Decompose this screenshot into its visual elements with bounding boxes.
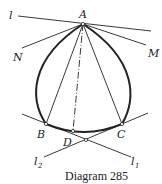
intersection-marker bbox=[84, 138, 87, 141]
label-N: N bbox=[12, 51, 23, 64]
label-l2-subscript: 2 bbox=[37, 162, 43, 170]
label-D: D bbox=[62, 136, 72, 149]
label-l1-subscript: 1 bbox=[135, 162, 139, 170]
label-A: A bbox=[78, 8, 87, 21]
line-AD bbox=[73, 24, 83, 131]
point-C-marker bbox=[120, 122, 123, 125]
point-D-marker bbox=[71, 129, 74, 132]
label-B: B bbox=[36, 128, 45, 141]
point-B-marker bbox=[44, 122, 47, 125]
label-l: l bbox=[9, 9, 13, 22]
diagram-caption: Diagram 285 bbox=[65, 169, 128, 183]
line-l2 bbox=[44, 113, 148, 157]
line-AN bbox=[22, 24, 83, 48]
point-A-marker bbox=[81, 22, 84, 25]
label-C: C bbox=[117, 128, 126, 141]
label-M: M bbox=[147, 47, 160, 60]
diagram-canvas: l A N M B D C l 2 l 1 Diagram 285 bbox=[0, 0, 162, 184]
